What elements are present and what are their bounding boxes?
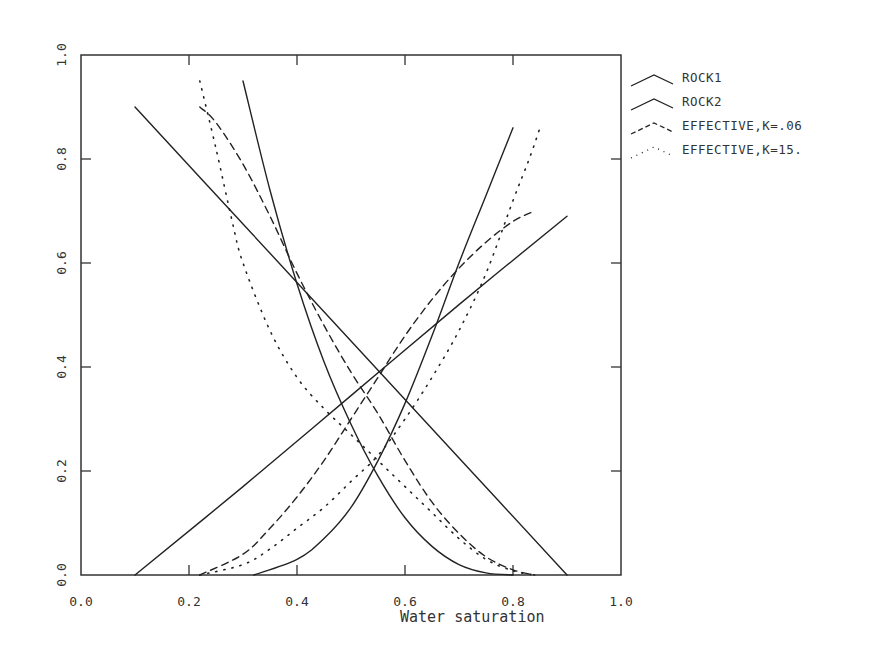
x-axis-title: Water saturation [400,608,545,626]
legend-label: EFFECTIVE,K=15. [682,142,802,157]
curve-kro [135,107,567,575]
legend-swatch-dashed [631,123,673,134]
x-tick-label: 1.0 [609,594,632,609]
y-tick-label: 0.0 [54,563,69,586]
series-rock2 [243,81,513,575]
x-tick-label: 0.4 [285,594,309,609]
legend-swatch-solid [631,75,673,86]
x-axis-ticks: 0.00.20.40.60.81.0 [69,55,632,609]
series-effective-k-15- [200,81,540,575]
y-tick-label: 0.4 [54,355,69,379]
legend-item: EFFECTIVE,K=.06 [631,118,802,134]
plot-frame [81,55,621,575]
legend-label: EFFECTIVE,K=.06 [682,118,802,133]
x-tick-label: 0.0 [69,594,92,609]
x-tick-label: 0.2 [177,594,200,609]
curve-krw [135,216,567,575]
legend-label: ROCK2 [682,94,722,109]
curve-krw [254,128,513,575]
y-tick-label: 0.6 [54,251,69,274]
x-tick-label: 0.6 [393,594,416,609]
legend-item: EFFECTIVE,K=15. [631,142,802,158]
series-rock1 [135,107,567,575]
curve-krw [200,128,540,575]
curve-kro [200,107,535,575]
curve-kro [243,81,513,575]
legend-label: ROCK1 [682,70,722,85]
x-tick-label: 0.8 [501,594,524,609]
y-tick-label: 0.8 [54,147,69,170]
y-tick-label: 1.0 [54,43,69,66]
legend-item: ROCK1 [631,70,722,86]
legend-swatch-solid [631,99,673,110]
data-curves [135,81,567,575]
legend-swatch-dotted [631,147,673,158]
y-tick-label: 0.2 [54,459,69,482]
curve-krw [200,211,535,575]
legend: ROCK1ROCK2EFFECTIVE,K=.06EFFECTIVE,K=15. [631,70,802,158]
relative-permeability-chart: 0.00.20.40.60.81.0 0.00.20.40.60.81.0 Wa… [0,0,880,655]
curve-kro [200,81,535,575]
y-axis-ticks: 0.00.20.40.60.81.0 [54,43,621,586]
legend-item: ROCK2 [631,94,722,110]
series-effective-k-06 [200,107,535,575]
